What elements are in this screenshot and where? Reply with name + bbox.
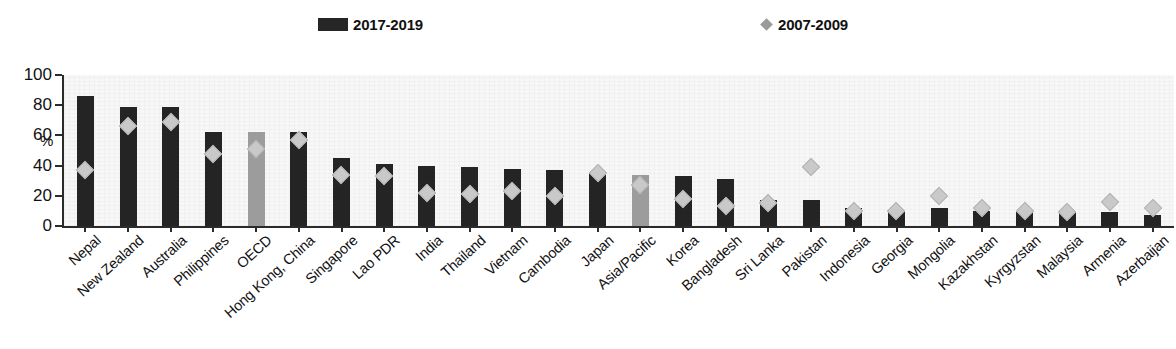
marker-2007-2009[interactable] bbox=[802, 158, 820, 176]
y-axis: % 100806040200 bbox=[0, 75, 62, 230]
bar-group[interactable] bbox=[149, 75, 192, 226]
bar-2017-2019[interactable] bbox=[376, 164, 393, 226]
marker-2007-2009[interactable] bbox=[162, 113, 180, 131]
marker-2007-2009[interactable] bbox=[973, 199, 991, 217]
bar-2017-2019[interactable] bbox=[1101, 212, 1118, 226]
marker-2007-2009[interactable] bbox=[674, 190, 692, 208]
marker-2007-2009[interactable] bbox=[1143, 199, 1161, 217]
bar-2017-2019[interactable] bbox=[418, 166, 435, 226]
marker-2007-2009[interactable] bbox=[460, 185, 478, 203]
bar-group[interactable] bbox=[491, 75, 534, 226]
bar-group[interactable] bbox=[448, 75, 491, 226]
bar-2017-2019[interactable] bbox=[1059, 212, 1076, 226]
bar-2017-2019[interactable] bbox=[120, 107, 137, 226]
legend-diamond-swatch-icon bbox=[760, 18, 773, 31]
marker-2007-2009[interactable] bbox=[1015, 202, 1033, 220]
bar-group[interactable] bbox=[363, 75, 406, 226]
y-axis-tick-label: 0 bbox=[43, 216, 52, 236]
bar-group[interactable] bbox=[918, 75, 961, 226]
bar-group[interactable] bbox=[107, 75, 150, 226]
plot-area bbox=[62, 75, 1174, 228]
bar-group[interactable] bbox=[235, 75, 278, 226]
y-axis-tick-label: 40 bbox=[33, 156, 52, 176]
bar-2017-2019[interactable] bbox=[461, 167, 478, 226]
marker-2007-2009[interactable] bbox=[332, 165, 350, 183]
marker-2007-2009[interactable] bbox=[418, 184, 436, 202]
bar-group[interactable] bbox=[747, 75, 790, 226]
bar-2017-2019[interactable] bbox=[1144, 215, 1161, 226]
marker-2007-2009[interactable] bbox=[759, 194, 777, 212]
marker-2007-2009[interactable] bbox=[204, 144, 222, 162]
marker-2007-2009[interactable] bbox=[503, 182, 521, 200]
bar-group[interactable] bbox=[875, 75, 918, 226]
marker-2007-2009[interactable] bbox=[375, 167, 393, 185]
x-axis-category-label: India bbox=[412, 232, 445, 264]
marker-2007-2009[interactable] bbox=[717, 197, 735, 215]
bar-2017-2019[interactable] bbox=[77, 96, 94, 226]
bar-group[interactable] bbox=[1131, 75, 1174, 226]
marker-2007-2009[interactable] bbox=[1058, 203, 1076, 221]
bar-group[interactable] bbox=[619, 75, 662, 226]
bar-2017-2019[interactable] bbox=[973, 211, 990, 226]
bar-group[interactable] bbox=[277, 75, 320, 226]
bar-2017-2019[interactable] bbox=[1016, 212, 1033, 226]
x-axis-category-label: Malaysia bbox=[1034, 232, 1086, 281]
y-axis-tick bbox=[55, 104, 62, 106]
bar-2017-2019[interactable] bbox=[931, 208, 948, 226]
bar-2017-2019[interactable] bbox=[333, 158, 350, 226]
marker-2007-2009[interactable] bbox=[546, 187, 564, 205]
bar-2017-2019[interactable] bbox=[504, 169, 521, 226]
bar-2017-2019[interactable] bbox=[632, 175, 649, 226]
clipped-chart-title bbox=[0, 0, 1176, 10]
bar-group[interactable] bbox=[576, 75, 619, 226]
bar-2017-2019[interactable] bbox=[290, 132, 307, 226]
bar-group[interactable] bbox=[1003, 75, 1046, 226]
bar-group[interactable] bbox=[406, 75, 449, 226]
bar-2017-2019[interactable] bbox=[248, 132, 265, 226]
marker-2007-2009[interactable] bbox=[887, 202, 905, 220]
bar-2017-2019[interactable] bbox=[546, 170, 563, 226]
bar-2017-2019[interactable] bbox=[760, 200, 777, 226]
bar-2017-2019[interactable] bbox=[205, 132, 222, 226]
legend-label-2007-2009: 2007-2009 bbox=[778, 16, 848, 33]
x-axis-category-label: Thailand bbox=[437, 232, 488, 280]
bar-group[interactable] bbox=[64, 75, 107, 226]
bar-2017-2019[interactable] bbox=[803, 200, 820, 226]
marker-2007-2009[interactable] bbox=[290, 131, 308, 149]
y-axis-tick bbox=[55, 134, 62, 136]
bar-group[interactable] bbox=[832, 75, 875, 226]
marker-2007-2009[interactable] bbox=[76, 161, 94, 179]
bar-2017-2019[interactable] bbox=[162, 107, 179, 226]
legend-bar-swatch-icon bbox=[318, 18, 348, 31]
bar-group[interactable] bbox=[961, 75, 1004, 226]
marker-2007-2009[interactable] bbox=[930, 187, 948, 205]
bar-group[interactable] bbox=[1089, 75, 1132, 226]
chart-legend: 2017-2019 2007-2009 bbox=[0, 12, 1176, 40]
bar-group[interactable] bbox=[320, 75, 363, 226]
bar-group[interactable] bbox=[192, 75, 235, 226]
marker-2007-2009[interactable] bbox=[119, 117, 137, 135]
marker-2007-2009[interactable] bbox=[588, 164, 606, 182]
y-axis-tick bbox=[55, 165, 62, 167]
marker-2007-2009[interactable] bbox=[631, 176, 649, 194]
bar-group[interactable] bbox=[790, 75, 833, 226]
bar-group[interactable] bbox=[704, 75, 747, 226]
y-axis-tick-label: 100 bbox=[24, 65, 52, 85]
bar-2017-2019[interactable] bbox=[589, 172, 606, 226]
y-axis-tick-label: 20 bbox=[33, 186, 52, 206]
y-axis-tick bbox=[55, 225, 62, 227]
y-axis-tick-label: 60 bbox=[33, 125, 52, 145]
bar-group[interactable] bbox=[1046, 75, 1089, 226]
y-axis-tick bbox=[55, 74, 62, 76]
marker-2007-2009[interactable] bbox=[1101, 193, 1119, 211]
bar-group[interactable] bbox=[534, 75, 577, 226]
bar-2017-2019[interactable] bbox=[675, 176, 692, 226]
bar-2017-2019[interactable] bbox=[845, 208, 862, 226]
bar-group[interactable] bbox=[662, 75, 705, 226]
marker-2007-2009[interactable] bbox=[247, 140, 265, 158]
x-axis-category-label: Nepal bbox=[66, 232, 104, 269]
bar-2017-2019[interactable] bbox=[888, 211, 905, 226]
marker-2007-2009[interactable] bbox=[845, 202, 863, 220]
y-axis-tick-label: 80 bbox=[33, 95, 52, 115]
bar-2017-2019[interactable] bbox=[717, 179, 734, 226]
